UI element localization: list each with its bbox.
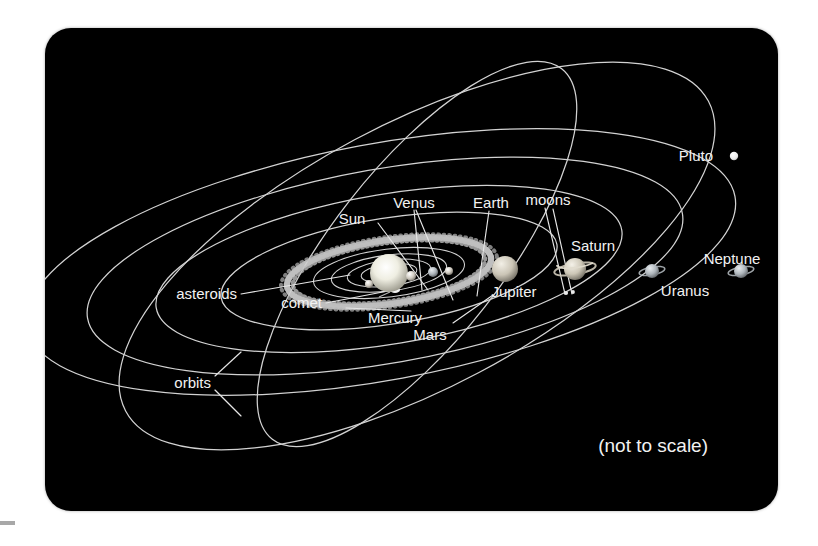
diagram-panel: Sun Venus Earth moons Saturn Pluto Neptu…: [45, 28, 778, 511]
label-jupiter: Jupiter: [491, 283, 536, 300]
body-mars: [445, 267, 453, 275]
label-uranus: Uranus: [661, 282, 709, 299]
label-moons: moons: [525, 191, 570, 208]
page-root: Sun Venus Earth moons Saturn Pluto Neptu…: [0, 0, 818, 546]
label-comet: comet: [281, 294, 323, 311]
label-venus: Venus: [393, 194, 435, 211]
moon-jupiter-1: [564, 291, 568, 295]
scale-note: (not to scale): [598, 435, 708, 456]
leader-mars: [453, 295, 493, 323]
solar-system-svg: Sun Venus Earth moons Saturn Pluto Neptu…: [45, 28, 778, 511]
label-sun: Sun: [339, 210, 366, 227]
corner-crop-mark: [0, 521, 15, 525]
body-venus: [406, 271, 416, 281]
moon-saturn-1: [571, 290, 575, 294]
body-jupiter: [492, 256, 518, 282]
body-pluto: [730, 152, 738, 160]
label-mercury: Mercury: [368, 309, 423, 326]
label-asteroids: asteroids: [176, 285, 237, 302]
body-sun: [370, 254, 408, 292]
label-neptune: Neptune: [704, 250, 761, 267]
body-uranus: [639, 264, 666, 278]
label-pluto: Pluto: [679, 147, 713, 164]
label-mars: Mars: [413, 326, 446, 343]
label-earth: Earth: [473, 194, 509, 211]
label-orbits: orbits: [174, 374, 211, 391]
leader-orbits-down: [215, 390, 241, 416]
leader-orbits-up: [215, 352, 241, 376]
moon-dots: [564, 290, 575, 295]
body-earth: [428, 267, 438, 277]
label-saturn: Saturn: [571, 237, 615, 254]
body-mercury: [365, 280, 373, 288]
